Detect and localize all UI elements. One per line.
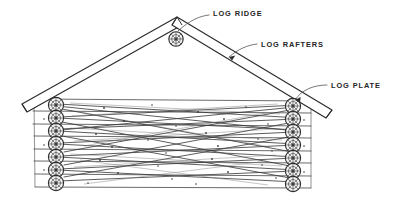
log-end <box>48 175 63 190</box>
label-log-rafters: LOG RAFTERS <box>261 40 324 49</box>
label-log-plate: LOG PLATE <box>331 81 381 90</box>
log-end <box>285 176 300 191</box>
ridge-log-end <box>169 32 183 46</box>
log-cabin-gable-sketch: LOG RIDGE LOG RAFTERS LOG PLATE <box>0 0 400 202</box>
label-log-ridge: LOG RIDGE <box>213 9 263 18</box>
drawing-canvas: LOG RIDGE LOG RAFTERS LOG PLATE <box>0 0 400 202</box>
